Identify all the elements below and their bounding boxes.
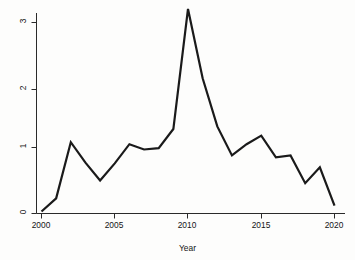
x-tick-marks bbox=[42, 214, 335, 219]
plot-area bbox=[0, 0, 355, 260]
data-line-total-us-aid bbox=[42, 9, 335, 212]
chart-container: Total US Aid, US$ billions 3 2 1 0 2000 … bbox=[0, 0, 355, 260]
y-tick-marks bbox=[32, 23, 37, 214]
